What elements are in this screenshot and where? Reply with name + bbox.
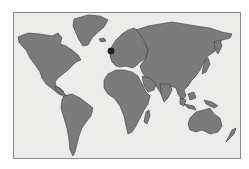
uk-location-marker [108, 48, 114, 54]
south-america [61, 94, 93, 156]
new-guinea [204, 100, 218, 108]
world-map [0, 0, 249, 169]
madagascar [144, 110, 150, 124]
north-america [18, 33, 81, 95]
iceland [99, 38, 106, 42]
new-zealand [226, 128, 236, 142]
indonesia [180, 98, 196, 110]
borneo [188, 92, 196, 100]
india [160, 84, 172, 102]
kamchatka [214, 40, 222, 54]
australia [188, 108, 222, 134]
